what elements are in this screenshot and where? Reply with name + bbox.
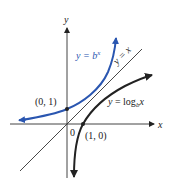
y-axis-label: y	[63, 14, 69, 25]
x-axis-label: x	[157, 119, 163, 130]
point-0-1	[65, 107, 69, 111]
point-1-0-label: (1, 0)	[85, 130, 107, 142]
point-1-0	[81, 122, 85, 126]
identity-line	[20, 49, 142, 171]
exponential-curve	[22, 38, 116, 120]
identity-label: y = x	[110, 44, 133, 67]
exponential-label: y = bx	[75, 49, 101, 61]
logarithm-curve	[74, 75, 152, 176]
exponential-left-arrow	[19, 120, 26, 121]
origin-label: 0	[70, 127, 75, 138]
point-0-1-label: (0, 1)	[35, 96, 57, 108]
logarithm-label: y = logbx	[107, 96, 144, 109]
graph-canvas: y x 0 (0, 1) (1, 0) y = bx y = logbx y =…	[0, 0, 173, 183]
